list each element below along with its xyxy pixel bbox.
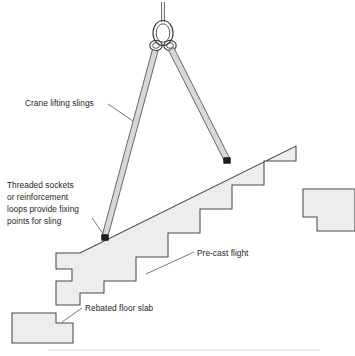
fixing-socket-lower [102,235,109,241]
leader-line-threaded-sockets [92,218,104,235]
label-threaded-sockets-line-2: or reinforcement [7,192,69,202]
precast-stair-lifting-diagram: Crane lifting slings Threaded sockets or… [0,0,355,356]
leader-line-crane-slings [108,104,133,121]
crane-lifting-ring-inner [156,24,170,42]
precast-stair-flight [56,146,296,305]
upper-landing-slab [303,189,355,231]
label-threaded-sockets-line-1: Threaded sockets [7,180,74,190]
lifting-sling-right [169,48,230,161]
diagram-canvas: Crane lifting slings Threaded sockets or… [0,0,355,356]
shackle-loop-right-inner [167,43,174,49]
label-precast-flight: Pre-cast flight [197,248,249,258]
shackle-loop-left-inner [153,43,160,49]
label-threaded-sockets-line-3: loops provide fixing [7,204,79,214]
lifting-slings-group [102,48,230,239]
crane-hoist-assembly [150,2,176,51]
label-threaded-sockets: Threaded sockets or reinforcement loops … [7,180,79,226]
label-threaded-sockets-line-4: points for sling [7,216,62,226]
lifting-sling-left [102,50,158,239]
leader-line-rebated-slab [62,308,82,322]
rebated-floor-slab [12,313,73,343]
label-rebated-floor-slab: Rebated floor slab [85,303,154,313]
fixing-socket-upper [224,158,231,164]
label-crane-lifting-slings: Crane lifting slings [25,98,94,108]
